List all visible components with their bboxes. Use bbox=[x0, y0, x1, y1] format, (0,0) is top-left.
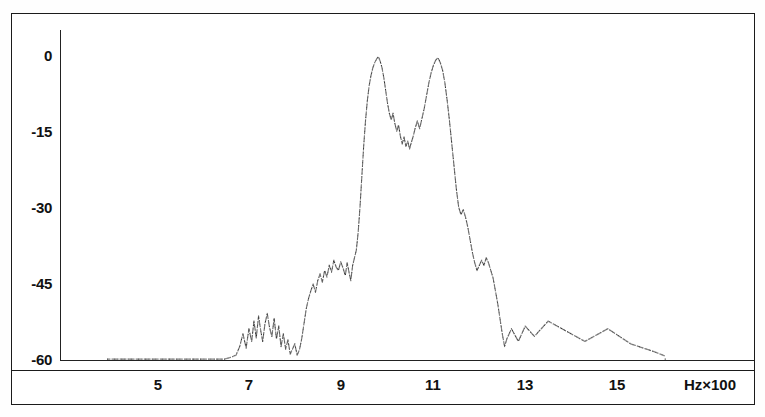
y-tick-label-0: 0 bbox=[44, 47, 52, 64]
x-tick-label-13: 13 bbox=[517, 376, 534, 393]
x-tick-label-15: 15 bbox=[609, 376, 626, 393]
axis-label-divider bbox=[11, 370, 755, 371]
y-tick-label-30: -30 bbox=[31, 199, 52, 216]
y-axis-tick-labels: 0 -15 -30 -45 -60 bbox=[0, 0, 52, 417]
x-tick-label-9: 9 bbox=[337, 376, 345, 393]
figure-outer-frame bbox=[11, 13, 755, 405]
spectrum-figure: 0 -15 -30 -45 -60 5 7 9 11 13 15 Hz×100 bbox=[0, 0, 765, 417]
x-tick-label-7: 7 bbox=[245, 376, 253, 393]
y-tick-label-45: -45 bbox=[31, 275, 52, 292]
x-tick-label-11: 11 bbox=[425, 376, 441, 393]
y-axis-line bbox=[60, 30, 61, 361]
x-axis-unit-label: Hz×100 bbox=[684, 376, 736, 393]
y-tick-label-60: -60 bbox=[31, 351, 52, 368]
x-tick-label-5: 5 bbox=[154, 376, 162, 393]
y-tick-label-15: -15 bbox=[31, 123, 52, 140]
x-axis-line bbox=[60, 360, 754, 361]
